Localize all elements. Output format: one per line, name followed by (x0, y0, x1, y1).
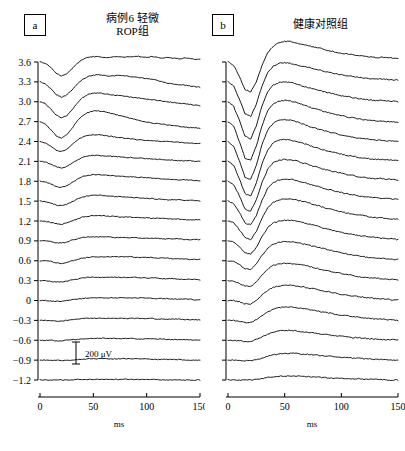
y-axis-tick-label: 3.3 (19, 76, 32, 87)
y-axis-tick-label: 1.5 (19, 196, 32, 207)
erg-trace (40, 56, 200, 76)
x-axis-tick-label: 0 (226, 401, 231, 412)
panel-b-plot: 050100150ms (200, 0, 405, 451)
x-axis-tick-label: 50 (88, 401, 98, 412)
y-axis-tick-label: 0.9 (19, 235, 32, 246)
y-axis-tick-label: −0.9 (13, 355, 31, 366)
x-axis-label: ms (114, 419, 125, 429)
erg-trace (40, 256, 200, 263)
y-axis-tick-label: −1.2 (13, 375, 31, 386)
erg-trace (40, 358, 200, 360)
figure-root: a 病例6 轻微 ROP组 3.63.33.02.72.42.11.81.51.… (0, 0, 405, 451)
erg-trace (40, 155, 200, 168)
erg-trace (228, 241, 398, 269)
erg-trace (40, 135, 200, 152)
erg-trace (40, 277, 200, 282)
y-axis-tick-label: 2.7 (19, 116, 32, 127)
scalebar-label: 200 μV (85, 349, 113, 359)
y-axis-tick-label: 3.6 (19, 57, 32, 68)
erg-trace (228, 307, 398, 323)
y-axis-tick-label: 0.3 (19, 275, 32, 286)
y-axis-tick-label: −0.6 (13, 335, 31, 346)
y-axis-tick-label: 0 (26, 295, 31, 306)
erg-trace (228, 220, 398, 254)
erg-trace (40, 111, 200, 139)
erg-trace (228, 285, 398, 304)
y-axis-tick-label: 2.1 (19, 156, 32, 167)
erg-trace (40, 93, 200, 118)
erg-trace (228, 376, 398, 381)
erg-trace (40, 237, 200, 244)
erg-trace (40, 215, 200, 224)
y-axis-tick-label: −0.3 (13, 315, 31, 326)
x-axis-label: ms (307, 419, 318, 429)
y-axis-tick-label: 1.2 (19, 216, 32, 227)
x-axis-tick-label: 100 (139, 401, 154, 412)
x-axis-tick-label: 100 (334, 401, 349, 412)
erg-trace (228, 100, 398, 160)
panel-b: b 健康对照组 050100150ms (200, 0, 405, 451)
erg-trace (228, 330, 398, 342)
erg-trace (228, 353, 398, 361)
erg-trace (228, 119, 398, 179)
erg-trace (228, 41, 398, 92)
erg-trace (40, 195, 200, 206)
y-axis-tick-label: 2.4 (19, 136, 32, 147)
erg-trace (40, 338, 200, 341)
erg-trace (40, 74, 200, 97)
erg-trace (40, 298, 200, 302)
x-axis-tick-label: 50 (280, 401, 290, 412)
panel-a-plot: 3.63.33.02.72.42.11.81.51.20.90.60.30−0.… (0, 0, 205, 451)
erg-trace (228, 139, 398, 196)
x-axis-tick-label: 0 (38, 401, 43, 412)
panel-a: a 病例6 轻微 ROP组 3.63.33.02.72.42.11.81.51.… (0, 0, 205, 451)
erg-trace (40, 318, 200, 321)
erg-trace (40, 379, 200, 380)
y-axis-tick-label: 0.6 (19, 255, 32, 266)
x-axis-tick-label: 150 (391, 401, 405, 412)
y-axis-tick-label: 1.8 (19, 176, 32, 187)
erg-trace (40, 174, 200, 187)
y-axis-tick-label: 3.0 (19, 96, 32, 107)
